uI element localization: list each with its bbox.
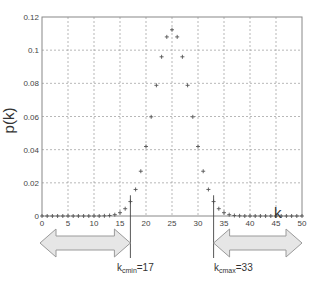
svg-text:10: 10 <box>90 219 99 228</box>
kcmax-label: kcmax=33 <box>214 262 253 274</box>
svg-text:0.1: 0.1 <box>28 46 40 55</box>
svg-text:25: 25 <box>168 219 177 228</box>
kcmin-value: =17 <box>137 262 154 273</box>
kcmin-sub: cmin <box>122 267 137 274</box>
kcmax-sub: cmax <box>219 267 236 274</box>
kcmax-value: =33 <box>236 262 253 273</box>
svg-text:5: 5 <box>66 219 71 228</box>
svg-text:0.12: 0.12 <box>23 13 39 22</box>
svg-text:0.02: 0.02 <box>23 179 39 188</box>
region-arrows <box>40 229 302 257</box>
svg-text:20: 20 <box>142 219 151 228</box>
svg-text:15: 15 <box>116 219 125 228</box>
y-axis-label: p(k) <box>0 108 17 134</box>
x-axis-label: k <box>274 204 282 221</box>
svg-text:40: 40 <box>246 219 255 228</box>
svg-text:30: 30 <box>194 219 203 228</box>
binomial-scatter-chart: 00.020.040.060.080.10.12 051015202530354… <box>0 0 315 283</box>
kcmin-label: kcmin=17 <box>117 262 154 274</box>
x-axis-ticks: 05101520253035404550 <box>40 219 307 228</box>
svg-text:0.04: 0.04 <box>23 146 39 155</box>
grid-lines <box>42 17 302 216</box>
svg-text:0: 0 <box>40 219 45 228</box>
svg-text:0.06: 0.06 <box>23 113 39 122</box>
svg-text:0.08: 0.08 <box>23 79 39 88</box>
svg-text:35: 35 <box>220 219 229 228</box>
y-axis-ticks: 00.020.040.060.080.10.12 <box>23 13 39 221</box>
svg-text:50: 50 <box>298 219 307 228</box>
